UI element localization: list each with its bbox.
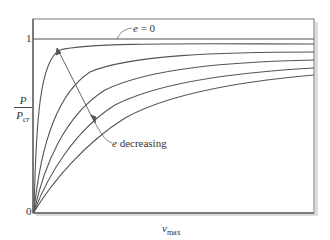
- y-label-denominator: Pcr: [14, 109, 32, 126]
- x-axis-label: vmax: [162, 222, 181, 237]
- chart-canvas: [0, 0, 330, 240]
- e-decreasing-text: decreasing: [117, 137, 167, 149]
- x-label-sub: max: [167, 228, 181, 237]
- y-tick-one: 1: [26, 32, 32, 44]
- y-label-numerator: P: [14, 94, 32, 106]
- e-decreasing-label: e decreasing: [112, 137, 167, 149]
- frame-shadow-right: [315, 22, 318, 216]
- y-axis-label: P Pcr: [14, 94, 32, 126]
- plot-frame: [33, 19, 314, 213]
- y-label-den-sub: cr: [23, 115, 30, 124]
- e-zero-label: e = 0: [133, 22, 155, 34]
- y-tick-zero: 0: [26, 205, 32, 217]
- e-zero-text: = 0: [138, 22, 155, 34]
- y-label-fraction-bar: [14, 107, 32, 108]
